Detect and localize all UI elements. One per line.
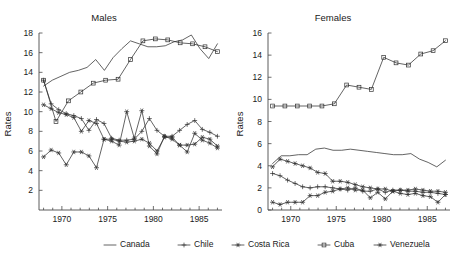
y-tick-label-females-8: 16 [253,28,263,38]
figure-background [0,0,457,264]
legend-label-canada: Canada [120,239,150,249]
y-tick-label-males-1: 4 [28,166,33,176]
panel-title-females: Females [315,12,352,23]
y-tick-label-males-3: 8 [28,126,33,136]
x-tick-label-females-0: 1970 [281,214,300,224]
y-axis-title-females: Rates [234,111,245,136]
y-tick-label-females-3: 6 [257,139,262,149]
y-tick-label-males-7: 16 [24,48,34,58]
y-tick-label-females-4: 8 [257,117,262,127]
x-tick-label-females-1: 1975 [327,214,346,224]
y-tick-label-males-2: 6 [28,146,33,156]
y-tick-label-males-0: 2 [28,185,33,195]
y-tick-label-males-8: 18 [24,28,34,38]
y-tick-label-females-2: 4 [257,161,262,171]
y-tick-label-females-6: 12 [253,72,263,82]
legend-label-venezuela: Venezuela [390,239,430,249]
panel-title-males: Males [91,12,117,23]
y-tick-label-males-6: 14 [24,67,34,77]
y-tick-label-females-0: 0 [257,205,262,215]
y-tick-label-females-5: 10 [253,94,263,104]
y-tick-label-females-1: 2 [257,183,262,193]
y-tick-label-females-7: 14 [253,50,263,60]
x-tick-label-males-2: 1980 [144,214,163,224]
x-tick-label-females-3: 1985 [418,214,437,224]
legend-label-chile: Chile [194,239,214,249]
legend-label-cuba: Cuba [334,239,355,249]
legend-label-costa-rica: Costa Rica [248,239,290,249]
y-tick-label-males-5: 12 [24,87,34,97]
y-tick-label-males-4: 10 [24,107,34,117]
x-tick-label-males-0: 1970 [52,214,71,224]
x-tick-label-females-2: 1980 [372,214,391,224]
x-tick-label-males-3: 1985 [190,214,209,224]
x-tick-label-males-1: 1975 [98,214,117,224]
y-axis-title-males: Rates [2,111,13,136]
figure-root: Males Rates 24681012141618 1970197519801… [0,0,457,264]
